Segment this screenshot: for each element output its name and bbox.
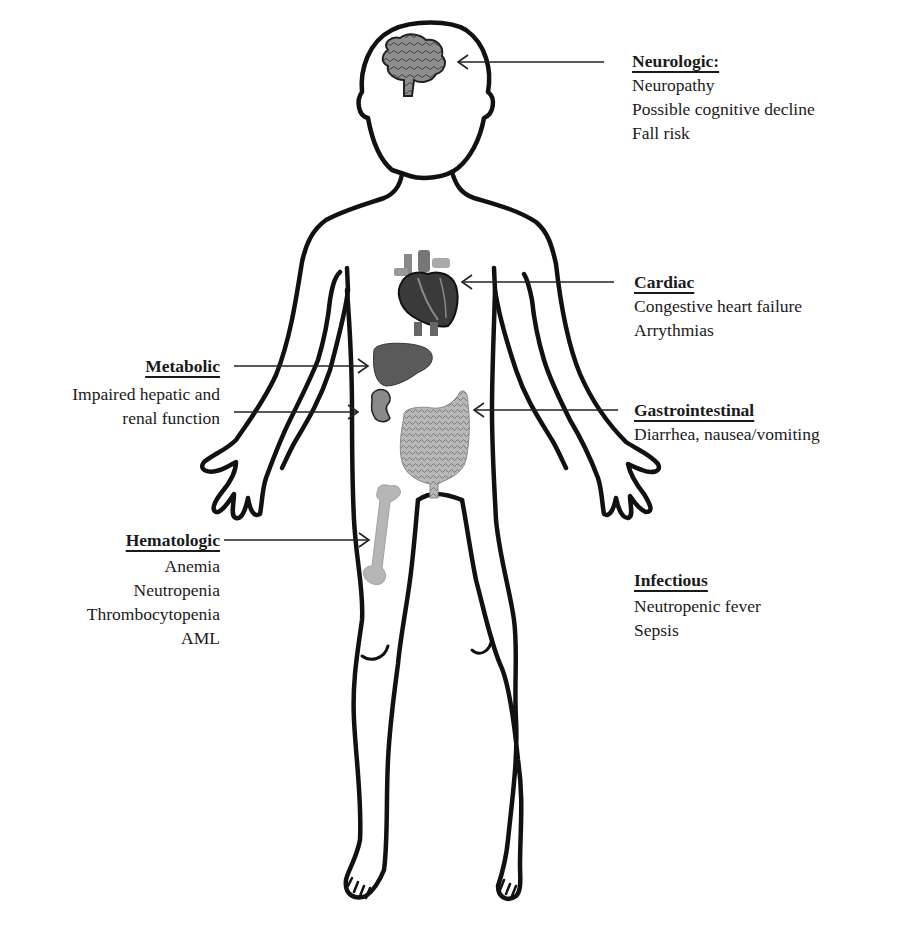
cardiac-title: Cardiac: [634, 270, 802, 294]
infectious-item: Neutropenic fever: [634, 594, 761, 618]
infectious-title: Infectious: [634, 568, 761, 592]
hematologic-item: Anemia: [87, 554, 220, 578]
hematologic-label: Hematologic Anemia Neutropenia Thrombocy…: [87, 528, 220, 650]
torso-left-outline: [202, 174, 402, 518]
neurologic-item: Fall risk: [632, 121, 815, 145]
hematologic-item: Neutropenia: [87, 578, 220, 602]
metabolic-label: Metabolic Impaired hepatic and renal fun…: [72, 354, 220, 430]
gastrointestinal-label: Gastrointestinal Diarrhea, nausea/vomiti…: [634, 398, 820, 446]
metabolic-item: renal function: [72, 406, 220, 430]
hematologic-item: AML: [87, 626, 220, 650]
neurologic-title: Neurologic:: [632, 49, 815, 73]
liver-icon: [374, 343, 433, 386]
kidney-icon: [372, 389, 391, 421]
right-torso-side: [462, 290, 521, 899]
heart-icon: [394, 250, 458, 336]
right-toes: [500, 880, 516, 896]
intestines-icon: [400, 391, 469, 498]
hematologic-title: Hematologic: [87, 528, 220, 552]
hematologic-item: Thrombocytopenia: [87, 602, 220, 626]
gastrointestinal-item: Diarrhea, nausea/vomiting: [634, 422, 820, 446]
neurologic-label: Neurologic: Neuropathy Possible cognitiv…: [632, 49, 815, 145]
cardiac-item: Arrythmias: [634, 318, 802, 342]
right-knee-mark: [472, 638, 492, 653]
crotch-outline: [418, 494, 462, 500]
torso-right-outline: [452, 172, 659, 518]
gastrointestinal-title: Gastrointestinal: [634, 398, 820, 422]
metabolic-title: Metabolic: [72, 354, 220, 378]
infectious-label: Infectious Neutropenic fever Sepsis: [634, 568, 761, 642]
neurologic-item: Possible cognitive decline: [632, 97, 815, 121]
cardiac-label: Cardiac Congestive heart failure Arrythm…: [634, 270, 802, 342]
femur-bone-icon: [363, 485, 400, 585]
neurologic-item: Neuropathy: [632, 73, 815, 97]
infectious-item: Sepsis: [634, 618, 761, 642]
brain-icon: [383, 34, 445, 96]
metabolic-item: Impaired hepatic and: [72, 382, 220, 406]
left-knee-mark: [362, 646, 388, 659]
cardiac-item: Congestive heart failure: [634, 294, 802, 318]
